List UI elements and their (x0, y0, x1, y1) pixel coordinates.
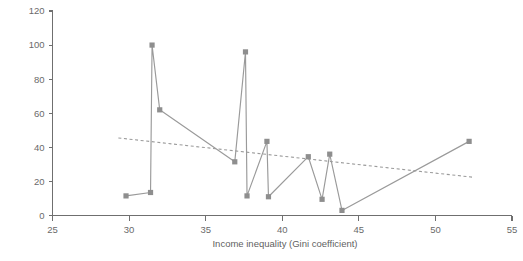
data-point-marker (243, 49, 248, 54)
data-point-marker (339, 208, 344, 213)
data-point-marker (467, 139, 472, 144)
x-axis-tick-label: 35 (200, 224, 211, 235)
x-axis-title: Income inequality (Gini coefficient) (212, 238, 357, 249)
plot-area: 020406080100120 25303540455055 Income in… (0, 0, 523, 261)
x-axis-tick-label: 50 (430, 224, 441, 235)
x-axis-tick-label: 55 (507, 224, 518, 235)
y-axis-tick-label: 40 (34, 142, 45, 153)
data-point-marker (148, 190, 153, 195)
data-point-marker (232, 159, 237, 164)
y-axis-group: 020406080100120 (29, 5, 53, 221)
data-point-marker (123, 193, 128, 198)
trendline-group (118, 138, 472, 177)
data-point-marker (149, 42, 154, 47)
y-axis-tick-label: 120 (29, 5, 45, 16)
y-axis-tick-label: 100 (29, 39, 45, 50)
y-axis-tick-label: 20 (34, 176, 45, 187)
series-polyline (126, 45, 469, 210)
data-point-marker (319, 197, 324, 202)
x-axis-tick-label: 45 (354, 224, 365, 235)
data-point-marker (244, 193, 249, 198)
data-point-marker (306, 154, 311, 159)
trendline (118, 138, 472, 177)
data-point-marker (157, 107, 162, 112)
x-axis-group: 25303540455055 (47, 216, 517, 235)
data-point-marker (327, 152, 332, 157)
x-axis-tick-label: 25 (47, 224, 58, 235)
series-group (123, 42, 471, 213)
data-point-marker (266, 194, 271, 199)
y-axis-tick-label: 0 (39, 210, 44, 221)
scatter-chart: 020406080100120 25303540455055 Income in… (0, 0, 523, 261)
data-point-marker (264, 139, 269, 144)
x-axis-tick-label: 30 (124, 224, 135, 235)
y-axis-tick-label: 60 (34, 108, 45, 119)
y-axis-tick-label: 80 (34, 74, 45, 85)
x-axis-tick-label: 40 (277, 224, 288, 235)
